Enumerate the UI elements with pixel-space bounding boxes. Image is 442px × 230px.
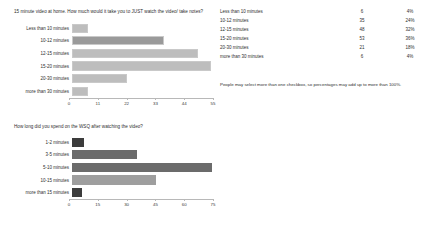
table-cell-percent: 4% [398,52,422,61]
chart-category-label: 10-12 minutes [8,38,72,43]
chart-bar-track [72,22,213,35]
axis-tick [213,199,214,201]
table-row: 10-12 minutes3524% [220,16,442,25]
axis-tick [184,98,185,100]
chart-category-label: 5-10 minutes [8,165,72,170]
table-row: more than 30 minutes64% [220,52,442,61]
axis-tick [98,98,99,100]
table-cell-count: 48 [350,25,374,34]
table-row: 20-30 minutes2118% [220,43,442,52]
axis-tick-label: 44 [182,101,187,106]
chart-bar [72,24,88,33]
chart-row: 12-15 minutes [8,47,213,60]
axis-tick [213,98,214,100]
axis-tick [127,199,128,201]
chart-bar [72,188,82,197]
chart-row: 3-5 minutes [8,149,213,162]
chart-bar-track [72,85,213,98]
chart-x-axis: 01122334455 [69,98,213,109]
axis-line [69,98,213,99]
chart-bar [72,138,84,147]
chart-bar-track [72,149,213,162]
bar-chart-video-time: Less than 10 minutes10-12 minutes12-15 m… [8,22,213,109]
table-cell-label: 20-30 minutes [220,43,249,52]
chart-bar [72,74,127,83]
table-cell-label: Less than 10 minutes [220,7,263,16]
table-cell-count: 21 [350,43,374,52]
chart-bar [72,175,156,184]
chart-bar [72,49,198,58]
axis-tick [127,98,128,100]
axis-tick [184,199,185,201]
table-cell-percent: 24% [398,16,422,25]
question-title-2: How long did you spend on the WSQ after … [14,124,143,130]
table-cell-percent: 36% [398,34,422,43]
axis-tick-label: 45 [153,202,158,207]
table-cell-label: 15-20 minutes [220,34,249,43]
axis-tick-label: 0 [68,101,70,106]
table-footnote-1: People may select more than one checkbox… [220,82,401,88]
chart-category-label: more than 30 minutes [8,89,72,94]
survey-section-wsq-time: How long did you spend on the WSQ after … [0,115,442,230]
table-cell-label: more than 30 minutes [220,52,264,61]
chart-category-label: Less than 10 minutes [8,26,72,31]
axis-tick [155,199,156,201]
chart-bar-track [72,35,213,48]
chart-bar-track [72,136,213,149]
axis-tick-label: 55 [211,101,216,106]
axis-tick-label: 0 [68,202,70,207]
chart-bar [72,163,212,172]
chart-bar-track [72,47,213,60]
chart-category-label: 15-20 minutes [8,64,72,69]
table-cell-percent: 4% [398,7,422,16]
table-row: 12-15 minutes4832% [220,25,442,34]
chart-x-axis: 01530456075 [69,199,213,210]
chart-row: 20-30 minutes [8,72,213,85]
table-cell-count: 6 [350,52,374,61]
axis-tick-label: 15 [95,202,100,207]
table-cell-count: 6 [350,7,374,16]
axis-tick [155,98,156,100]
chart-row: Less than 10 minutes [8,22,213,35]
axis-tick [98,199,99,201]
chart-bar-track [72,174,213,187]
chart-rows: 1-2 minutes3-5 minutes5-10 minutes10-15 … [8,136,213,199]
chart-bar-track [72,186,213,199]
axis-tick-label: 22 [124,101,129,106]
axis-tick-label: 60 [182,202,187,207]
bar-chart-wsq-time: 1-2 minutes3-5 minutes5-10 minutes10-15 … [8,136,213,210]
chart-bar [72,150,137,159]
table-cell-count: 35 [350,16,374,25]
chart-rows: Less than 10 minutes10-12 minutes12-15 m… [8,22,213,98]
chart-category-label: 10-15 minutes [8,178,72,183]
table-row: Less than 10 minutes64% [220,7,442,16]
chart-bar [72,36,164,45]
chart-row: 15-20 minutes [8,60,213,73]
chart-bar-track [72,161,213,174]
chart-row: 10-15 minutes [8,174,213,187]
table-cell-label: 12-15 minutes [220,25,249,34]
table-cell-label: 10-12 minutes [220,16,249,25]
chart-bar-track [72,60,213,73]
chart-row: 1-2 minutes [8,136,213,149]
table-body: Less than 10 minutes64%10-12 minutes3524… [220,7,442,62]
chart-category-label: 20-30 minutes [8,76,72,81]
survey-section-video-time: 15 minute video at home. How much would … [0,0,442,115]
chart-row: 5-10 minutes [8,161,213,174]
chart-category-label: 12-15 minutes [8,51,72,56]
table-cell-percent: 18% [398,43,422,52]
axis-tick [69,98,70,100]
chart-category-label: 3-5 minutes [8,152,72,157]
axis-tick-label: 33 [153,101,158,106]
chart-bar [72,87,88,96]
chart-row: more than 30 minutes [8,85,213,98]
table-cell-percent: 32% [398,25,422,34]
chart-bar-track [72,72,213,85]
results-table-video-time: Less than 10 minutes64%10-12 minutes3524… [220,7,442,62]
axis-tick-label: 30 [124,202,129,207]
axis-tick-label: 11 [96,101,101,106]
chart-row: more than 15 minutes [8,186,213,199]
chart-category-label: more than 15 minutes [8,190,72,195]
axis-line [69,199,213,200]
table-cell-count: 53 [350,34,374,43]
